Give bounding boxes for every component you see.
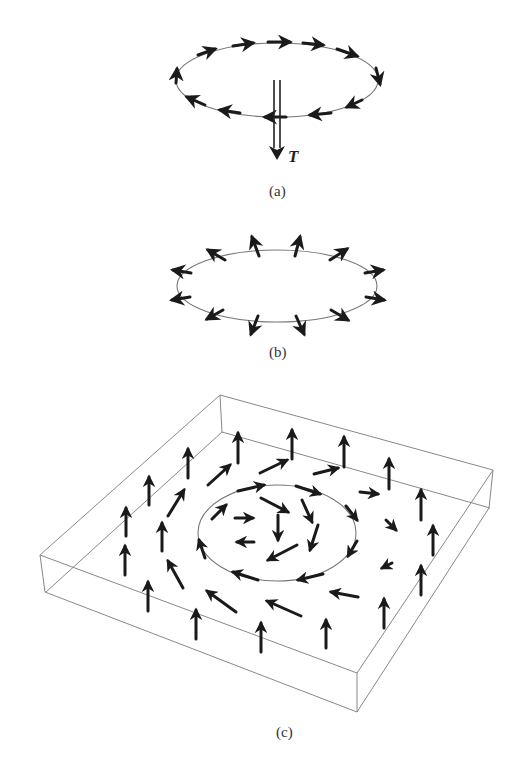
panel-label-a: (a): [269, 183, 286, 200]
vector-label-T: T: [288, 147, 299, 166]
down-arrow-icon: [269, 80, 285, 160]
figure-canvas: T (a) (b): [0, 0, 520, 769]
slab-box: [40, 395, 493, 712]
ring-curve: [177, 250, 377, 322]
spin-arrows: [125, 430, 433, 652]
radial-arrows: [172, 237, 384, 334]
panel-a: T (a): [176, 42, 380, 200]
tangent-arrows: [176, 42, 380, 117]
panel-b: (b): [172, 237, 384, 361]
panel-c: (c): [40, 395, 493, 741]
panel-label-c: (c): [276, 724, 293, 741]
panel-label-b: (b): [269, 344, 287, 361]
